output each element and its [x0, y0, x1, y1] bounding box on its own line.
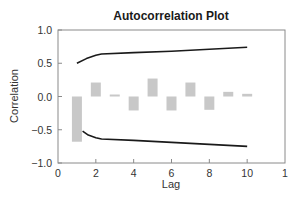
y-tick-label: −0.5 — [31, 124, 52, 136]
bar-lag-8 — [204, 97, 214, 110]
bar-lag-9 — [223, 92, 233, 97]
y-tick-label: 1.0 — [37, 24, 52, 36]
y-tick-label: 0.5 — [37, 57, 52, 69]
lower-confidence-line — [83, 131, 248, 146]
bar-lag-5 — [148, 79, 158, 97]
x-tick-label: 2 — [93, 167, 99, 179]
upper-confidence-line — [77, 47, 247, 63]
bar-lag-10 — [242, 94, 252, 97]
plot-area: 1.00.50.0−0.5−1.002468101 — [0, 0, 304, 213]
x-tick-label: 10 — [241, 167, 253, 179]
bar-lag-3 — [110, 95, 120, 97]
y-tick-label: 0.0 — [37, 91, 52, 103]
x-tick-label: 0 — [55, 167, 61, 179]
bar-lag-6 — [167, 97, 177, 111]
bar-lag-2 — [91, 83, 101, 97]
x-tick-label: 1 — [282, 167, 288, 179]
y-tick-label: −1.0 — [31, 157, 52, 169]
x-tick-label: 8 — [206, 167, 212, 179]
x-tick-label: 6 — [169, 167, 175, 179]
x-tick-label: 4 — [131, 167, 137, 179]
bar-lag-7 — [185, 83, 195, 97]
bar-lag-4 — [129, 97, 139, 111]
bar-lag-1 — [72, 97, 82, 142]
autocorrelation-chart: Autocorrelation Plot Correlation Lag 1.0… — [0, 0, 304, 213]
